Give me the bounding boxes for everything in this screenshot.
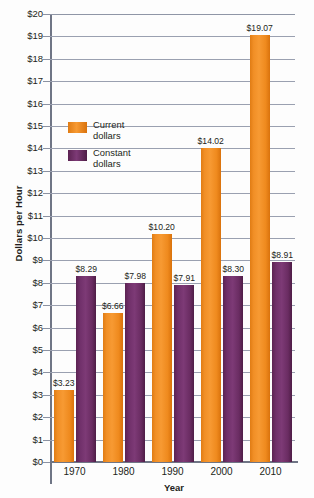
- bar-label-2010-constant: $8.91: [260, 251, 304, 260]
- y-axis-tick-label: $11: [3, 211, 43, 221]
- bar-label-1980-current: $6.66: [91, 302, 135, 311]
- y-axis-tick-mark: [43, 104, 50, 105]
- y-axis-tick-mark: [43, 126, 50, 127]
- legend-label-constant-line1: Constant: [93, 147, 131, 158]
- y-axis-tick-mark: [43, 372, 50, 373]
- legend-label-current: Current dollars: [93, 120, 124, 141]
- y-axis-tick-label: $8: [3, 278, 43, 288]
- y-axis-tick-mark: [43, 417, 50, 418]
- y-axis-tick-mark: [43, 305, 50, 306]
- y-axis-tick-label: $10: [3, 233, 43, 243]
- legend-label-current-line1: Current: [93, 119, 124, 130]
- bar-2010-constant: [272, 262, 292, 462]
- y-axis-tick-mark: [43, 193, 50, 194]
- y-axis-tick-mark: [43, 283, 50, 284]
- chart-legend: Current dollars Constant dollars: [68, 120, 154, 176]
- x-axis-title: Year: [50, 482, 298, 493]
- bar-label-1970-constant: $8.29: [64, 265, 108, 274]
- y-axis-tick-mark: [43, 440, 50, 441]
- bar-1970-current: [54, 390, 74, 462]
- y-axis-tick-mark: [43, 260, 50, 261]
- bar-label-1990-current: $10.20: [140, 223, 184, 232]
- bar-1980-current: [103, 313, 123, 462]
- legend-label-current-line2: dollars: [93, 130, 121, 141]
- bar-label-1990-constant: $7.91: [162, 274, 206, 283]
- legend-label-constant-line2: dollars: [93, 158, 121, 169]
- y-axis-tick-label: $9: [3, 255, 43, 265]
- y-axis-tick-label: $18: [3, 54, 43, 64]
- bar-1990-constant: [174, 285, 194, 462]
- legend-item-constant: Constant dollars: [68, 148, 154, 169]
- bar-2000-current: [201, 148, 221, 462]
- y-axis-tick-label: $20: [3, 9, 43, 19]
- bar-label-2010-current: $19.07: [238, 24, 282, 33]
- y-axis-tick-mark: [43, 14, 50, 15]
- y-axis-tick-label: $1: [3, 435, 43, 445]
- y-axis-tick-label: $17: [3, 76, 43, 86]
- y-axis-tick-mark: [43, 36, 50, 37]
- bar-label-2000-current: $14.02: [189, 137, 233, 146]
- y-axis-tick-label: $19: [3, 31, 43, 41]
- y-axis-tick-label: $7: [3, 300, 43, 310]
- y-axis-tick-label: $0: [3, 457, 43, 467]
- y-axis-tick-mark: [43, 462, 50, 463]
- bar-2010-current: [250, 35, 270, 462]
- y-axis-tick-label: $3: [3, 390, 43, 400]
- y-axis-tick-mark: [43, 59, 50, 60]
- legend-swatch-current-icon: [68, 122, 87, 133]
- gridline: [50, 14, 295, 15]
- y-axis-tick-mark: [43, 328, 50, 329]
- y-axis-tick-label: $5: [3, 345, 43, 355]
- y-axis-tick-label: $6: [3, 323, 43, 333]
- y-axis-tick-mark: [43, 350, 50, 351]
- legend-label-constant: Constant dollars: [93, 148, 131, 169]
- y-axis-tick-mark: [43, 238, 50, 239]
- legend-swatch-constant-icon: [68, 150, 87, 161]
- bar-label-1980-constant: $7.98: [113, 272, 157, 281]
- plot-area: $3.23$8.29$6.66$7.98$10.20$7.91$14.02$8.…: [50, 14, 295, 462]
- y-axis-tick-label: $14: [3, 143, 43, 153]
- y-axis-tick-label: $12: [3, 188, 43, 198]
- y-axis-tick-mark: [43, 395, 50, 396]
- y-axis-tick-label: $16: [3, 99, 43, 109]
- y-axis-tick-mark: [43, 148, 50, 149]
- y-axis-tick-label: $13: [3, 166, 43, 176]
- x-axis-tick-label-2010: 2010: [241, 466, 301, 477]
- legend-item-current: Current dollars: [68, 120, 154, 141]
- bar-label-2000-constant: $8.30: [211, 265, 255, 274]
- y-axis-tick-label: $15: [3, 121, 43, 131]
- bar-1990-current: [152, 234, 172, 462]
- y-axis-tick-mark: [43, 81, 50, 82]
- y-axis-tick-label: $2: [3, 412, 43, 422]
- bar-2000-constant: [223, 276, 243, 462]
- y-axis-tick-mark: [43, 171, 50, 172]
- y-axis-tick-mark: [43, 216, 50, 217]
- bar-chart: Dollars per Hour $3.23$8.29$6.66$7.98$10…: [0, 0, 314, 498]
- y-axis-tick-label: $4: [3, 367, 43, 377]
- bar-label-1970-current: $3.23: [42, 379, 86, 388]
